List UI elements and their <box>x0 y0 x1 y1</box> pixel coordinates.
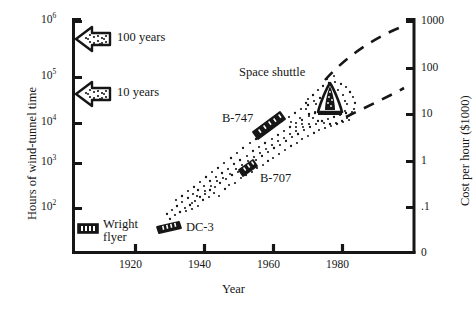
bottom-tick-label-1960: 1960 <box>257 258 280 270</box>
left-tick-label-1e3: 103 <box>41 155 56 167</box>
bottom-axis-title: Year <box>222 283 245 297</box>
callout-arrow-10-years <box>76 82 110 106</box>
marker-b747 <box>253 112 285 139</box>
marker-wright-flyer <box>78 224 98 233</box>
bottom-axis-ticks <box>136 244 343 252</box>
left-tick-label-1e6: 106 <box>41 13 56 25</box>
left-tick-exponent-4: 4 <box>53 113 57 122</box>
point-label-space-shuttle: Space shuttle <box>239 66 305 80</box>
right-tick-label-1: 1 <box>421 154 427 166</box>
point-label-wright-flyer-line1: Wright <box>103 218 138 231</box>
marker-space-shuttle <box>318 83 342 115</box>
callout-label-100-years: 100 years <box>117 31 165 45</box>
marker-b707 <box>239 160 257 176</box>
right-tick-label-100: 100 <box>421 61 438 73</box>
left-tick-label-1e4: 104 <box>41 115 56 127</box>
left-tick-exponent-5: 5 <box>53 67 57 76</box>
right-tick-label-1000: 1000 <box>421 14 444 26</box>
callout-label-10-years: 10 years <box>117 86 159 100</box>
bottom-tick-label-1940: 1940 <box>188 258 211 270</box>
right-tick-label-0: 0 <box>421 246 427 258</box>
left-tick-exponent-3: 3 <box>53 153 57 162</box>
marker-dc3 <box>157 222 181 233</box>
left-tick-exponent-2: 2 <box>53 198 57 207</box>
point-label-dc3: DC-3 <box>186 221 214 235</box>
point-label-wright-flyer-line2: flyer <box>103 231 138 244</box>
left-tick-exponent-6: 6 <box>53 11 57 20</box>
left-tick-label-1e5: 105 <box>41 69 56 81</box>
bottom-tick-label-1980: 1980 <box>326 258 349 270</box>
right-axis-title: Cost per hour ($1000) <box>459 95 473 206</box>
callout-arrow-100-years <box>76 27 110 51</box>
left-axis-title: Hours of wind-tunnel time <box>26 87 40 220</box>
left-tick-label-1e2: 102 <box>41 200 56 212</box>
bottom-tick-label-1920: 1920 <box>119 258 142 270</box>
chart-figure: 106 105 104 103 102 Hours of wind-tunnel… <box>0 0 474 309</box>
point-label-b707: B-707 <box>260 172 291 186</box>
right-tick-label-10: 10 <box>421 107 433 119</box>
point-label-wright-flyer: Wright flyer <box>103 218 138 245</box>
chart-canvas <box>0 0 474 309</box>
point-label-b747: B-747 <box>222 112 253 126</box>
right-tick-label-point1: .1 <box>421 200 430 212</box>
